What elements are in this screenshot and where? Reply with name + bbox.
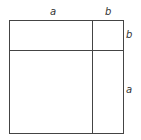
outer-square (10, 21, 124, 134)
label-right-a: a (126, 84, 132, 95)
label-right-b: b (126, 29, 132, 40)
label-top-a: a (50, 6, 56, 17)
square-partition-diagram: a b b a (0, 0, 141, 140)
label-top-b: b (105, 6, 111, 17)
